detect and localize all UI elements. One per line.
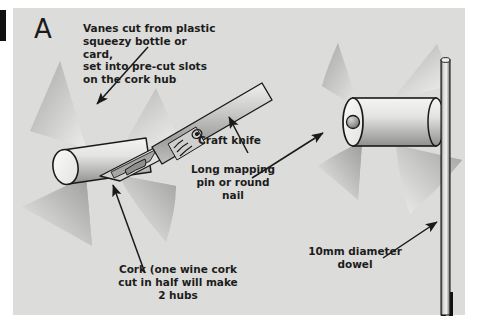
label-craft-knife: Craft knife (198, 134, 272, 147)
label-mapping-pin: Long mapping pin or round nail (186, 163, 280, 201)
label-dowel: 10mm diameter dowel (299, 245, 411, 271)
right-edge-crop-mark (441, 292, 446, 316)
left-edge-crop-mark (0, 10, 6, 41)
label-vanes: Vanes cut from plastic squeezy bottle or… (83, 22, 219, 86)
label-cork: Cork (one wine cork cut in half will mak… (100, 263, 256, 301)
figure-root: A Vanes cut from plastic squeezy bottle … (0, 0, 487, 330)
right-edge-crop-mark-secondary (449, 292, 453, 316)
panel-letter: A (34, 14, 52, 44)
